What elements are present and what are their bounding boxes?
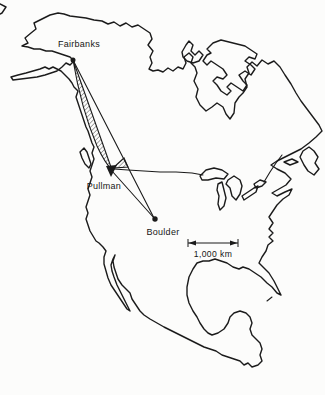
great-lakes bbox=[200, 168, 266, 210]
vancouver-island bbox=[80, 148, 91, 168]
boulder-dot-icon bbox=[152, 216, 157, 221]
scale-bar bbox=[188, 239, 238, 247]
fairbanks-dot-icon bbox=[71, 58, 76, 63]
scale-left-arrow-icon bbox=[189, 241, 197, 246]
florida-keys bbox=[267, 297, 272, 301]
arctic-islands bbox=[182, 40, 257, 95]
pullman-label: Pullman bbox=[87, 181, 121, 191]
siberia-coast-fragment bbox=[0, 4, 6, 14]
anticosti-island bbox=[284, 159, 298, 165]
st-lawrence-river bbox=[264, 155, 282, 182]
fairbanks-boulder-line bbox=[73, 60, 154, 218]
scale-bar-label: 1,000 km bbox=[194, 249, 233, 259]
north-america-map: Fairbanks Pullman Boulder 1,000 km bbox=[0, 0, 325, 395]
us-canada-border bbox=[114, 169, 203, 175]
boulder-label: Boulder bbox=[147, 227, 180, 237]
scale-right-arrow-icon bbox=[230, 241, 238, 246]
fairbanks-label: Fairbanks bbox=[58, 39, 100, 49]
continent-outline bbox=[11, 13, 322, 367]
map-figure: Fairbanks Pullman Boulder 1,000 km bbox=[0, 0, 325, 395]
propagation-lines bbox=[73, 60, 154, 218]
newfoundland-island bbox=[300, 147, 319, 175]
